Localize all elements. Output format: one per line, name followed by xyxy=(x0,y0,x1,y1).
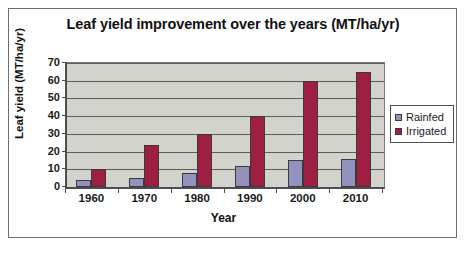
bar-group xyxy=(129,63,159,187)
bar-irrigated-2000 xyxy=(303,81,318,187)
chart-figure: Leaf yield improvement over the years (M… xyxy=(0,0,466,254)
x-axis-tick-mark xyxy=(118,188,119,193)
chart-legend: RainfedIrrigated xyxy=(390,105,454,143)
x-axis-tick-label: 1970 xyxy=(119,192,169,204)
y-axis-title: Leaf yield (MT/ha/yr) xyxy=(13,29,25,139)
legend-item-rainfed[interactable]: Rainfed xyxy=(395,110,450,124)
y-axis-tick-label: 40 xyxy=(38,110,60,121)
bar-group xyxy=(341,63,371,187)
bar-irrigated-1970 xyxy=(144,145,159,188)
y-axis-tick-label: 50 xyxy=(38,92,60,103)
legend-swatch-icon xyxy=(395,114,402,121)
x-axis-tick-label: 1960 xyxy=(66,192,116,204)
bar-rainfed-2000 xyxy=(288,160,303,187)
bar-rainfed-1990 xyxy=(235,166,250,187)
x-axis-tick-mark xyxy=(382,188,383,193)
y-axis-tick-mark xyxy=(62,151,66,152)
x-axis-tick-label: 1990 xyxy=(225,192,275,204)
x-axis-tick-mark xyxy=(276,188,277,193)
y-axis-tick-mark xyxy=(62,115,66,116)
x-axis-tick-mark xyxy=(65,188,66,193)
bar-group xyxy=(76,63,106,187)
y-axis-tick-mark xyxy=(62,80,66,81)
x-axis-tick-label: 2010 xyxy=(331,192,381,204)
y-axis-tick-label: 60 xyxy=(38,75,60,86)
x-axis-tick-labels: 196019701980199020002010 xyxy=(65,192,382,208)
y-axis-tick-mark xyxy=(62,97,66,98)
bar-rainfed-1960 xyxy=(76,180,91,187)
x-axis-tick-mark xyxy=(171,188,172,193)
plot-area xyxy=(65,62,385,189)
bar-group xyxy=(288,63,318,187)
x-axis-tick-mark xyxy=(224,188,225,193)
bars-layer xyxy=(67,63,384,187)
legend-item-irrigated[interactable]: Irrigated xyxy=(395,124,450,138)
y-axis-tick-mark xyxy=(62,168,66,169)
x-axis-tick-label: 1980 xyxy=(172,192,222,204)
y-axis-tick-label: 70 xyxy=(38,57,60,68)
legend-label: Irrigated xyxy=(406,125,446,137)
bar-group xyxy=(235,63,265,187)
bar-irrigated-1960 xyxy=(91,169,106,187)
y-axis-tick-mark xyxy=(62,186,66,187)
chart-title: Leaf yield improvement over the years (M… xyxy=(0,16,466,32)
bar-irrigated-1990 xyxy=(250,116,265,187)
legend-swatch-icon xyxy=(395,128,402,135)
x-axis-title: Year xyxy=(65,211,382,225)
bar-group xyxy=(182,63,212,187)
bar-rainfed-1970 xyxy=(129,178,144,187)
y-axis-tick-label: 10 xyxy=(38,163,60,174)
x-axis-tick-label: 2000 xyxy=(278,192,328,204)
bar-rainfed-1980 xyxy=(182,173,197,187)
y-axis-tick-label: 20 xyxy=(38,146,60,157)
y-axis-tick-label: 30 xyxy=(38,128,60,139)
bar-irrigated-1980 xyxy=(197,134,212,187)
y-axis-tick-mark xyxy=(62,133,66,134)
y-axis-tick-label: 0 xyxy=(38,181,60,192)
y-axis-tick-labels: 010203040506070 xyxy=(36,62,60,186)
legend-label: Rainfed xyxy=(406,111,444,123)
x-axis-tick-mark xyxy=(329,188,330,193)
bar-irrigated-2010 xyxy=(356,72,371,187)
bar-rainfed-2010 xyxy=(341,159,356,187)
y-axis-tick-mark xyxy=(62,62,66,63)
